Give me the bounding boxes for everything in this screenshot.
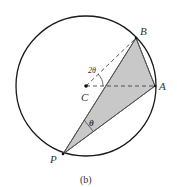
point-b <box>135 37 138 40</box>
label-c: C <box>81 91 89 103</box>
point-p <box>62 153 65 156</box>
label-inscribed-angle: θ <box>89 118 94 128</box>
point-c <box>84 84 88 88</box>
label-b: B <box>140 25 147 37</box>
label-p: P <box>49 153 57 165</box>
point-a <box>154 85 157 88</box>
label-a: A <box>158 80 166 92</box>
inscribed-angle-diagram: B A C P 2θ θ (b) <box>0 0 177 187</box>
label-central-angle: 2θ <box>88 66 96 75</box>
central-angle-arc <box>98 74 103 86</box>
figure-caption: (b) <box>80 174 92 186</box>
